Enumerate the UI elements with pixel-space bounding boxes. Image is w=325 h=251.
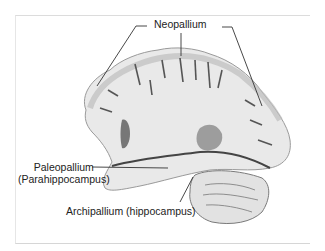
label-neopallium: Neopallium	[154, 18, 207, 30]
label-parahippocampus: (Parahippocampus)	[18, 173, 110, 185]
label-paleopallium: Paleopallium (Parahippocampus)	[18, 161, 110, 185]
label-paleopallium-name: Paleopallium	[18, 161, 110, 173]
cerebellum	[190, 171, 269, 224]
cerebrum	[84, 48, 290, 190]
label-archipallium: Archipallium (hippocampus)	[66, 205, 196, 217]
